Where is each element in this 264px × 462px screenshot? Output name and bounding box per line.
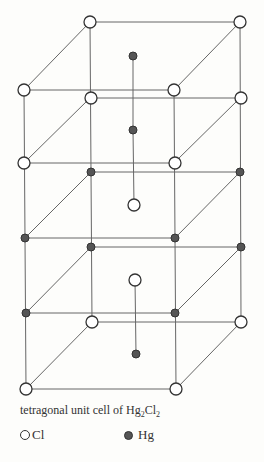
cl-atom	[85, 92, 97, 104]
cl-atom	[234, 16, 246, 28]
cl-atom	[235, 92, 247, 104]
open-circle-icon	[20, 430, 30, 440]
caption-text: tetragonal unit cell of Hg	[20, 403, 141, 417]
hg-atom	[21, 234, 29, 242]
hg-atom	[171, 234, 179, 242]
caption-subscript: 2	[156, 410, 160, 419]
hg-atom	[237, 243, 245, 251]
cl-atom	[235, 316, 247, 328]
hg-atom	[22, 309, 30, 317]
cl-atom	[128, 199, 140, 211]
legend-item-hg: Hg	[124, 427, 154, 443]
cl-atom	[86, 316, 98, 328]
hg-atom	[236, 168, 244, 176]
cl-atom	[18, 157, 30, 169]
hg-atom	[87, 243, 95, 251]
hg-atom	[129, 126, 137, 134]
legend-label: Hg	[138, 427, 154, 443]
legend-item-cl: Cl	[20, 427, 44, 443]
cl-atom	[20, 383, 32, 395]
figure-caption: tetragonal unit cell of Hg2Cl2	[20, 403, 160, 419]
unit-cell-diagram	[0, 0, 264, 400]
cl-atom	[18, 84, 30, 96]
cl-atom	[168, 84, 180, 96]
hg-atom	[171, 309, 179, 317]
cl-atom	[84, 16, 96, 28]
cl-atom	[169, 157, 181, 169]
filled-circle-icon	[124, 431, 133, 440]
hg-atom	[132, 350, 140, 358]
legend-label: Cl	[32, 427, 44, 443]
hg-atom	[87, 168, 95, 176]
cl-atom	[170, 383, 182, 395]
caption-text: Cl	[145, 403, 156, 417]
hg-atom	[129, 52, 137, 60]
cl-atom	[129, 274, 141, 286]
